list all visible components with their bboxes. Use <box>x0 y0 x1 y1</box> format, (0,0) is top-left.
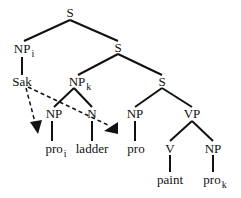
arrowhead-left <box>30 120 42 134</box>
node-sak: Sak <box>12 75 32 89</box>
leaf-pro-2: pro <box>127 142 144 156</box>
node-n-inner: N <box>87 107 96 121</box>
node-s-low: S <box>158 75 165 89</box>
node-np-i: NPi <box>14 42 34 57</box>
node-np-k: NPk <box>69 75 92 90</box>
node-np-obj: NP <box>205 142 222 156</box>
node-np-inner: NP <box>46 107 63 121</box>
node-v: V <box>165 142 174 156</box>
leaf-pro-3: prok <box>203 173 226 188</box>
node-np-subj: NP <box>127 107 144 121</box>
node-vp: VP <box>184 107 201 121</box>
tree-edges <box>0 0 241 198</box>
leaf-ladder: ladder <box>76 142 108 156</box>
leaf-paint: paint <box>157 173 183 187</box>
node-s-root: S <box>66 6 73 20</box>
leaf-pro-1: proi <box>45 142 66 157</box>
node-s-mid: S <box>114 41 121 55</box>
